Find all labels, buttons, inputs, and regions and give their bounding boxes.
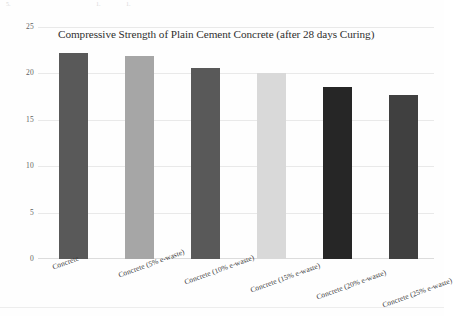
bar <box>257 73 286 259</box>
scan-artifact-mark: 5. <box>6 1 11 7</box>
x-axis-category-label: Concrete (15% e-waste) <box>249 261 321 295</box>
bar <box>125 56 154 259</box>
y-axis-tick-label: 25 <box>0 22 34 31</box>
bar-series <box>38 27 434 259</box>
y-axis-tick-label: 20 <box>0 68 34 77</box>
bar-chart: 2520151050 Compressive Strength of Plain… <box>0 14 444 316</box>
bar <box>191 68 220 259</box>
bar <box>59 53 88 259</box>
scan-artifact-mark: 1. <box>96 1 101 7</box>
x-axis-category-label: Concrete (25% e-waste) <box>381 276 453 310</box>
y-axis-tick-label: 5 <box>0 208 34 217</box>
scan-artifact-row: 5. 1. 1. <box>0 0 444 14</box>
y-axis-tick-label: 10 <box>0 161 34 170</box>
bar <box>323 87 352 259</box>
bar <box>389 95 418 259</box>
page-bottom-rule <box>0 307 444 308</box>
y-axis-tick-label: 15 <box>0 115 34 124</box>
scan-artifact-mark: 1. <box>126 1 131 7</box>
x-axis-category-label: Concrete (20% e-waste) <box>315 268 387 302</box>
y-axis-tick-labels: 2520151050 <box>0 27 34 259</box>
